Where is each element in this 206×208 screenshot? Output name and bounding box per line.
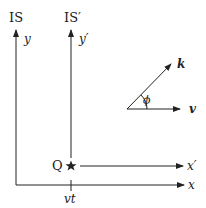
point-q-label: Q — [52, 158, 63, 173]
vt-label: vt — [64, 192, 76, 206]
k-vector-label: k — [177, 57, 185, 71]
relativity-diagram: IS y x IS′ y′ x′ Q vt v k ϕ — [0, 0, 206, 208]
x-axis-label: x — [188, 178, 195, 192]
vector-diagram: v k ϕ — [127, 57, 197, 116]
frame-is-title: IS — [9, 10, 23, 25]
angle-phi-label: ϕ — [143, 94, 151, 107]
y-prime-axis-label: y′ — [78, 32, 89, 46]
frame-is-prime-title: IS′ — [64, 10, 81, 25]
frame-is-prime: IS′ y′ x′ — [64, 10, 197, 173]
frame-is: IS y x — [9, 10, 195, 192]
star-icon — [66, 161, 77, 171]
y-axis-label: y — [23, 32, 31, 46]
x-prime-axis-label: x′ — [187, 159, 197, 173]
v-vector-label: v — [189, 102, 197, 116]
